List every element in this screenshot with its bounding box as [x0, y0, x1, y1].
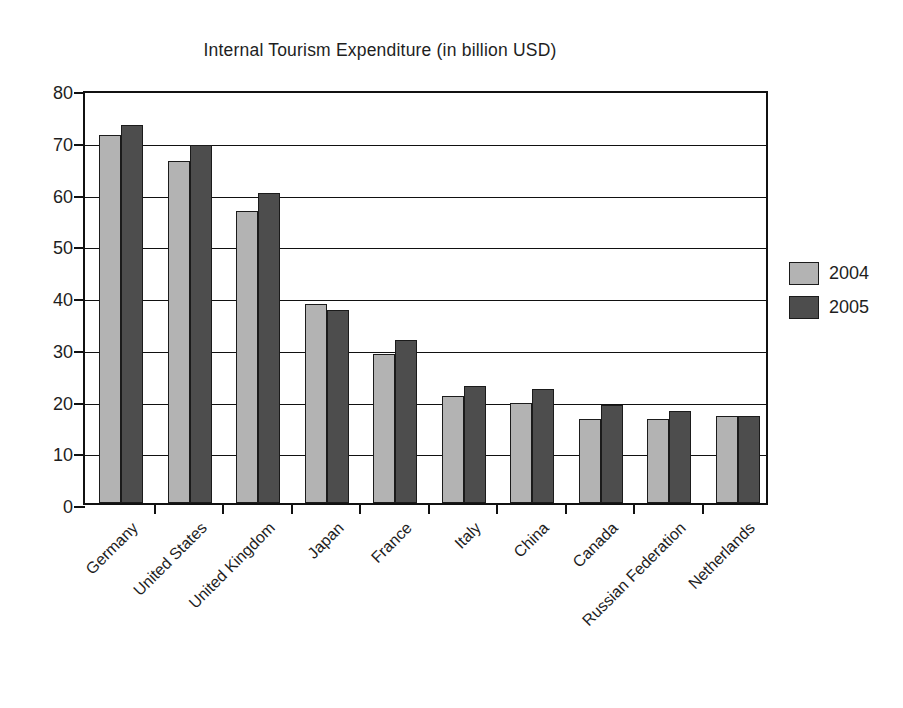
- y-tick-mark: [74, 247, 85, 249]
- x-axis-category-label: France: [368, 519, 416, 567]
- bar: [305, 304, 327, 503]
- x-tick-mark: [428, 503, 430, 514]
- x-tick-mark: [359, 503, 361, 514]
- bar-chart-figure: Internal Tourism Expenditure (in billion…: [0, 0, 903, 708]
- bar: [647, 419, 669, 503]
- x-tick-mark: [565, 503, 567, 514]
- gridline: [85, 145, 766, 146]
- y-tick-mark: [74, 144, 85, 146]
- bar: [327, 310, 349, 503]
- y-tick-label: 50: [53, 238, 73, 259]
- y-tick-mark: [74, 92, 85, 94]
- x-axis-category-label: Germany: [83, 519, 142, 578]
- bar: [510, 403, 532, 503]
- plot-area: 01020304050607080: [83, 91, 768, 505]
- x-axis-category-label: Canada: [569, 519, 621, 571]
- bar: [738, 416, 760, 503]
- bar: [258, 193, 280, 504]
- y-tick-mark: [74, 299, 85, 301]
- x-axis-category-label: Netherlands: [685, 519, 759, 593]
- bar: [442, 396, 464, 503]
- legend-swatch: [789, 296, 819, 319]
- y-tick-label: 30: [53, 341, 73, 362]
- x-tick-mark: [633, 503, 635, 514]
- y-tick-mark: [74, 454, 85, 456]
- bar: [373, 354, 395, 503]
- y-tick-label: 20: [53, 393, 73, 414]
- y-tick-label: 0: [63, 497, 73, 518]
- y-tick-label: 60: [53, 186, 73, 207]
- y-tick-label: 80: [53, 83, 73, 104]
- legend-swatch: [789, 262, 819, 285]
- legend-item: 2005: [789, 290, 899, 324]
- x-tick-mark: [154, 503, 156, 514]
- bar: [168, 161, 190, 503]
- legend-label: 2004: [829, 263, 869, 284]
- x-axis-category-label: China: [511, 519, 553, 561]
- bar: [190, 145, 212, 503]
- x-axis-category-label: Japan: [304, 519, 348, 563]
- legend-label: 2005: [829, 297, 869, 318]
- x-tick-mark: [496, 503, 498, 514]
- bar: [99, 135, 121, 503]
- y-tick-mark: [74, 196, 85, 198]
- y-tick-label: 40: [53, 290, 73, 311]
- bar: [579, 419, 601, 503]
- bar: [532, 389, 554, 503]
- x-axis-category-label: Italy: [451, 519, 484, 552]
- y-tick-mark: [74, 506, 85, 508]
- bar: [121, 125, 143, 503]
- y-tick-label: 70: [53, 134, 73, 155]
- y-tick-mark: [74, 403, 85, 405]
- bar: [464, 386, 486, 503]
- x-tick-mark: [291, 503, 293, 514]
- bar: [716, 416, 738, 503]
- x-tick-mark: [222, 503, 224, 514]
- bar: [395, 340, 417, 503]
- bar: [601, 405, 623, 503]
- legend-item: 2004: [789, 256, 899, 290]
- chart-legend: 20042005: [789, 256, 899, 324]
- x-tick-mark: [702, 503, 704, 514]
- chart-title: Internal Tourism Expenditure (in billion…: [0, 40, 760, 61]
- bar: [669, 411, 691, 503]
- y-tick-label: 10: [53, 445, 73, 466]
- y-tick-mark: [74, 351, 85, 353]
- bar: [236, 211, 258, 503]
